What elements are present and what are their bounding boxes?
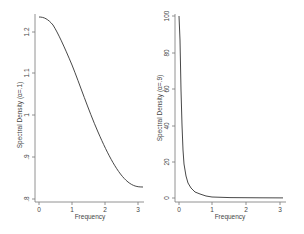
spectral-curve	[179, 16, 283, 198]
x-tick-label: 2	[244, 206, 248, 213]
y-tick-label: 0	[163, 196, 170, 200]
x-axis-label: Frequency	[75, 213, 106, 221]
y-axis-label: Spectral Density (α=.9)	[156, 75, 164, 141]
y-tick-label: .8	[23, 196, 30, 202]
y-tick-label: .9	[23, 154, 30, 160]
y-tick-label: 100	[163, 10, 170, 21]
y-tick-label: 80	[163, 49, 170, 57]
y-axis-label: Spectral Density (α=.1)	[16, 82, 24, 148]
x-tick-label: 1	[210, 206, 214, 213]
x-tick-label: 0	[177, 206, 181, 213]
x-tick-label: 0	[37, 206, 41, 213]
x-axis-label: Frequency	[215, 213, 246, 221]
x-tick-label: 3	[136, 206, 140, 213]
y-tick-label: 1.2	[23, 27, 30, 36]
y-tick-label: 60	[163, 85, 170, 93]
x-tick-label: 1	[70, 206, 74, 213]
figure: .8 .9 1 1.1 1.2 0 1 2 3 Frequency Spectr…	[0, 0, 304, 234]
right-plot: 0 20 40 60 80 100 0 1 2 3 Frequency Spec…	[156, 10, 286, 221]
y-tick-label: 1	[23, 113, 30, 117]
y-tick-label: 40	[163, 122, 170, 130]
y-tick-label: 1.1	[23, 68, 30, 77]
spectral-curve	[39, 17, 143, 187]
x-tick-label: 2	[103, 206, 107, 213]
y-tick-label: 20	[163, 158, 170, 166]
left-plot: .8 .9 1 1.1 1.2 0 1 2 3 Frequency Spectr…	[16, 14, 144, 221]
x-tick-label: 3	[278, 206, 282, 213]
